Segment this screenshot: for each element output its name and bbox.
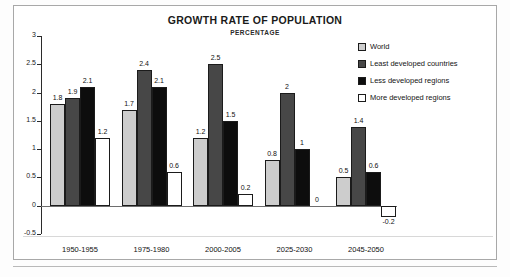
bar-value-label: 2.4 <box>130 60 159 67</box>
legend-label: World <box>370 42 389 51</box>
legend-label: Least developed countries <box>370 59 458 68</box>
bar <box>193 138 208 206</box>
legend-item[interactable]: Less developed regions <box>358 72 498 89</box>
y-axis-tick <box>37 36 41 37</box>
bar <box>50 104 65 206</box>
x-axis-category-label: 2000-2005 <box>183 245 263 254</box>
chart-title: GROWTH RATE OF POPULATION <box>0 14 510 26</box>
bar-value-label: 0 <box>303 196 332 203</box>
bar <box>80 87 95 206</box>
bar <box>238 194 253 205</box>
legend-swatch-icon <box>358 43 366 51</box>
bar <box>137 70 152 206</box>
bar <box>65 98 80 205</box>
chart-figure: GROWTH RATE OF POPULATION PERCENTAGE 32.… <box>0 0 510 277</box>
bar <box>208 64 223 205</box>
y-axis-tick-label: 0.5 <box>6 172 36 179</box>
bar <box>95 138 110 206</box>
y-axis-tick <box>37 121 41 122</box>
bar <box>265 160 280 205</box>
legend-item[interactable]: More developed regions <box>358 89 498 106</box>
bar <box>152 87 167 206</box>
plot-area: 1.81.92.11.21.72.42.10.61.22.51.50.20.82… <box>42 36 342 234</box>
bar <box>223 121 238 206</box>
y-axis-tick-label: 1.5 <box>6 116 36 123</box>
chart-legend: WorldLeast developed countriesLess devel… <box>358 38 498 106</box>
bar <box>366 172 381 206</box>
legend-swatch-icon <box>358 60 366 68</box>
x-axis-category-label: 2025-2030 <box>255 245 335 254</box>
y-axis-tick <box>37 93 41 94</box>
y-axis-tick <box>37 234 41 235</box>
bar-value-label: 2.1 <box>73 77 102 84</box>
bar-value-label: 2 <box>273 83 302 90</box>
bar-value-label: 0.6 <box>359 162 388 169</box>
y-axis-tick <box>37 64 41 65</box>
bar-value-label: -0.2 <box>374 218 403 225</box>
bar-value-label: 0.2 <box>231 184 260 191</box>
bar <box>167 172 182 206</box>
legend-item[interactable]: Least developed countries <box>358 55 498 72</box>
bar-value-label: 1.5 <box>216 111 245 118</box>
legend-label: More developed regions <box>370 93 450 102</box>
legend-label: Less developed regions <box>370 76 449 85</box>
legend-swatch-icon <box>358 94 366 102</box>
y-axis-tick <box>37 149 41 150</box>
bar-value-label: 2.5 <box>201 54 230 61</box>
bar-value-label: 1.4 <box>344 117 373 124</box>
y-axis-tick-label: -0.5 <box>6 229 36 236</box>
bar-value-label: 0.6 <box>160 162 189 169</box>
bar <box>122 110 137 206</box>
bar-value-label: 2.1 <box>145 77 174 84</box>
y-axis-tick-label: 2.5 <box>6 59 36 66</box>
x-axis-category-label: 2045-2050 <box>326 245 406 254</box>
y-axis-tick <box>37 206 41 207</box>
bar <box>280 93 295 206</box>
legend-item[interactable]: World <box>358 38 498 55</box>
y-axis-tick <box>37 177 41 178</box>
bar-value-label: 1.2 <box>88 128 117 135</box>
x-axis-category-label: 1950-1955 <box>40 245 120 254</box>
y-axis-tick-label: 3 <box>6 31 36 38</box>
bar <box>336 177 351 205</box>
y-axis-tick-label: 2 <box>6 88 36 95</box>
x-axis-category-label: 1975-1980 <box>112 245 192 254</box>
bar <box>381 206 396 217</box>
y-axis-tick-label: 1 <box>6 144 36 151</box>
axis-bottom-rule <box>23 236 493 237</box>
chart-subtitle: PERCENTAGE <box>0 29 510 36</box>
footnote-text <box>16 267 316 276</box>
bar-value-label: 1 <box>288 139 317 146</box>
y-axis-tick-label: 0 <box>6 201 36 208</box>
legend-swatch-icon <box>358 77 366 85</box>
